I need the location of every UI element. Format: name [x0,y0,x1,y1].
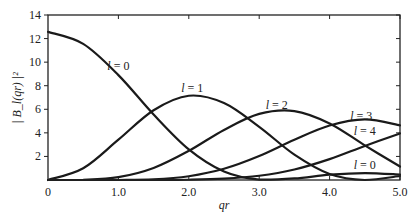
y-tick-label: 8 [35,79,41,93]
curve-label: l = 1 [181,81,203,95]
y-tick-label: 6 [35,102,41,116]
curves [48,32,400,180]
x-axis-label: qr [219,198,230,212]
curve-label: l = 2 [266,98,288,112]
curve-label: l = 0 [107,59,129,73]
curve-label: l = 0 [354,158,376,172]
curve-labels: l = 0l = 1l = 2l = 3l = 4l = 0 [107,59,376,172]
x-tick-label: 0 [45,185,51,199]
x-tick-label: 1.0 [111,185,126,199]
curve-l0 [48,32,400,180]
y-axis-label: | B_l(qr) |² [10,72,24,124]
x-tick-label: 2.0 [181,185,196,199]
y-tick-label: 2 [35,149,41,163]
bessel-chart: 01.02.03.04.05.02468101214 l = 0l = 1l =… [0,0,419,217]
curve-label: l = 3 [350,109,372,123]
y-tick-label: 10 [29,55,41,69]
curve-label: l = 4 [354,124,376,138]
y-tick-label: 14 [29,8,41,22]
x-tick-label: 5.0 [393,185,408,199]
x-tick-label: 4.0 [322,185,337,199]
curve-l1 [48,95,400,180]
x-tick-label: 3.0 [252,185,267,199]
y-tick-label: 12 [29,32,41,46]
y-tick-label: 4 [35,126,41,140]
